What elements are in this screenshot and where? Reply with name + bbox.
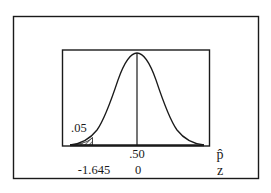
z-symbol: z bbox=[217, 163, 223, 178]
p-hat-symbol: p̂ bbox=[217, 147, 224, 162]
tail-area-label: .05 bbox=[71, 121, 87, 135]
p-hat-center-label: .50 bbox=[129, 147, 145, 161]
z-center-label: 0 bbox=[135, 163, 141, 177]
normal-distribution-figure: .05 .50 -1.645 0 p̂ z bbox=[0, 0, 271, 193]
z-critical-label: -1.645 bbox=[78, 163, 110, 177]
